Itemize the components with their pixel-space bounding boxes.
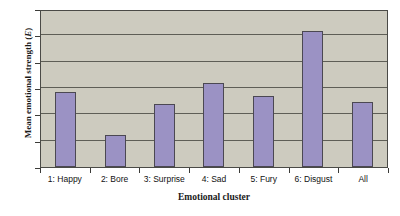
x-axis-tick-mark [40,168,41,173]
bar-slot [140,11,189,167]
x-axis-tick-label: All [338,174,388,184]
x-axis-tick-mark [90,168,91,173]
bar[interactable] [253,96,274,167]
bar-slot [90,11,139,167]
plot-area [40,10,388,168]
bar-series [41,11,387,167]
x-axis-tick-label: 6: Disgust [289,174,339,184]
bar-chart-figure: Mean emotional strength (E) 010203040506… [0,0,400,216]
bar-slot [239,11,288,167]
x-axis-tick-label: 3: Surprise [139,174,189,184]
x-axis-tick-label: 1: Happy [40,174,90,184]
bar[interactable] [55,92,76,167]
x-axis-tick-label: 2: Bore [90,174,140,184]
y-axis-title-tail: ) [23,28,33,31]
bar[interactable] [352,102,373,167]
x-axis-tick-labels: 1: Happy2: Bore3: Surprise4: Sad5: Fury6… [40,174,388,184]
x-axis-tick-mark [139,168,140,173]
y-axis-title: Mean emotional strength (E) [23,0,33,168]
bar-slot [288,11,337,167]
x-axis-tick-mark [289,168,290,173]
bar[interactable] [203,83,224,167]
bar-slot [189,11,238,167]
x-axis-tick-label: 4: Sad [189,174,239,184]
y-axis-title-text: Mean emotional strength ( [23,37,33,139]
x-axis-tick-mark [189,168,190,173]
x-axis-tick-mark [388,168,389,173]
bar-slot [338,11,387,167]
bar-slot [41,11,90,167]
bar[interactable] [105,135,126,167]
x-axis-title: Emotional cluster [40,192,388,202]
bar[interactable] [154,104,175,167]
x-axis-ticks [40,168,388,173]
x-axis-tick-mark [239,168,240,173]
x-axis-tick-mark [338,168,339,173]
bar[interactable] [302,31,323,167]
y-axis-title-symbol: E [23,31,33,37]
x-axis-tick-label: 5: Fury [239,174,289,184]
